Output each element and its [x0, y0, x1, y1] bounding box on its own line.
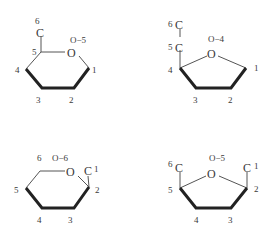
atom-o-ring: O — [207, 167, 216, 181]
label-6: 6 — [35, 16, 40, 26]
atom-o-ring: O — [66, 165, 75, 179]
label-2: 2 — [95, 185, 100, 195]
label-5: 5 — [32, 47, 37, 57]
label-5: 5 — [168, 42, 173, 52]
bond-bold-ring-bottom — [180, 188, 247, 208]
label-1: 1 — [254, 63, 259, 73]
bond-o-c1 — [218, 56, 246, 68]
label-6: 6 — [168, 159, 173, 169]
bond-bold-ring-bottom — [26, 68, 89, 88]
bond-c5-o — [180, 176, 206, 188]
structure-furanose-top-right: 6 C 5 C O O−4 4 3 2 1 — [168, 18, 259, 105]
bond-bold-ring-bottom — [180, 68, 246, 88]
diagram-canvas: 6 C 5 O O−5 4 3 2 1 6 C 5 C O O−4 4 3 2 … — [0, 0, 269, 230]
label-5: 5 — [168, 185, 173, 195]
annotation-o5: O−5 — [209, 153, 226, 163]
label-1: 1 — [254, 161, 259, 171]
bond-bold-ring-bottom — [26, 187, 89, 208]
label-2: 2 — [228, 95, 233, 105]
atom-c6: C — [175, 18, 183, 32]
label-1: 1 — [94, 164, 99, 174]
label-3: 3 — [68, 215, 73, 225]
bond-o-c1 — [79, 56, 89, 68]
label-4: 4 — [168, 65, 173, 75]
bond-c6-c5 — [26, 171, 40, 188]
label-6: 6 — [37, 153, 42, 163]
structure-pyranose-top-left: 6 C 5 O O−5 4 3 2 1 — [15, 16, 97, 105]
atom-c1: C — [84, 164, 92, 178]
annotation-o6: O−6 — [52, 153, 69, 163]
atom-o-ring: O — [207, 47, 216, 61]
label-4: 4 — [194, 215, 199, 225]
atom-c6: C — [175, 161, 183, 175]
atom-o-ring: O — [67, 46, 76, 60]
structure-furanose-bottom-right: 6 C O−5 O C 1 5 2 4 3 — [168, 153, 259, 225]
label-1: 1 — [92, 65, 97, 75]
label-6: 6 — [168, 19, 173, 29]
label-4: 4 — [15, 65, 20, 75]
structure-pyranose-bottom-left: 6 O−6 O C 1 2 5 4 3 — [14, 153, 100, 225]
annotation-o5: O−5 — [70, 35, 87, 45]
annotation-o4: O−4 — [208, 34, 225, 44]
atom-c: C — [36, 26, 44, 40]
atom-c1: C — [243, 161, 251, 175]
label-3: 3 — [36, 95, 41, 105]
bond-c4-o — [180, 56, 207, 68]
bond-o-c2 — [219, 176, 247, 188]
label-3: 3 — [228, 215, 233, 225]
label-2: 2 — [69, 95, 74, 105]
label-4: 4 — [37, 215, 42, 225]
label-2: 2 — [254, 184, 259, 194]
label-5: 5 — [14, 185, 19, 195]
label-3: 3 — [193, 95, 198, 105]
atom-c5: C — [175, 41, 183, 55]
